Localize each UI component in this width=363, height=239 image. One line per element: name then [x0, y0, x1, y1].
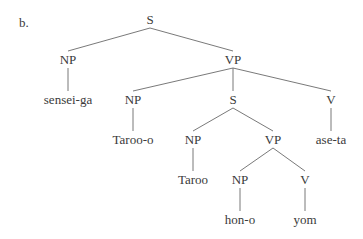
leaf-word-hon-o: hon-o — [225, 212, 255, 227]
node-vp: VP — [225, 52, 242, 67]
edge-vp-to-np — [133, 68, 233, 91]
node-np: NP — [125, 92, 142, 107]
leaf-word-taroo-o: Taroo-o — [113, 132, 154, 147]
edge-s-to-vp — [150, 28, 233, 51]
edge-vp-to-np — [240, 148, 273, 171]
node-v: V — [300, 172, 310, 187]
syntax-tree-diagram: b. SNPsensei-gaVPNPTaroo-oSNPTarooVPNPho… — [0, 0, 363, 239]
leaf-word-sensei-ga: sensei-ga — [44, 92, 93, 107]
leaf-word-taroo: Taroo — [178, 172, 208, 187]
example-label: b. — [19, 15, 29, 30]
node-np: NP — [232, 172, 249, 187]
tree-nodes: SNPsensei-gaVPNPTaroo-oSNPTarooVPNPhon-o… — [44, 12, 347, 227]
node-s: S — [229, 92, 236, 107]
node-np: NP — [185, 132, 202, 147]
edge-vp-to-v — [273, 148, 305, 171]
node-vp: VP — [265, 132, 282, 147]
node-s: S — [146, 12, 153, 27]
edge-s-to-np — [68, 28, 150, 51]
edge-s-to-np — [193, 108, 233, 131]
edge-vp-to-v — [233, 68, 331, 91]
edge-s-to-vp — [233, 108, 273, 131]
node-np: NP — [60, 52, 77, 67]
leaf-word-yom: yom — [293, 212, 316, 227]
leaf-word-ase-ta: ase-ta — [316, 132, 347, 147]
node-v: V — [326, 92, 336, 107]
